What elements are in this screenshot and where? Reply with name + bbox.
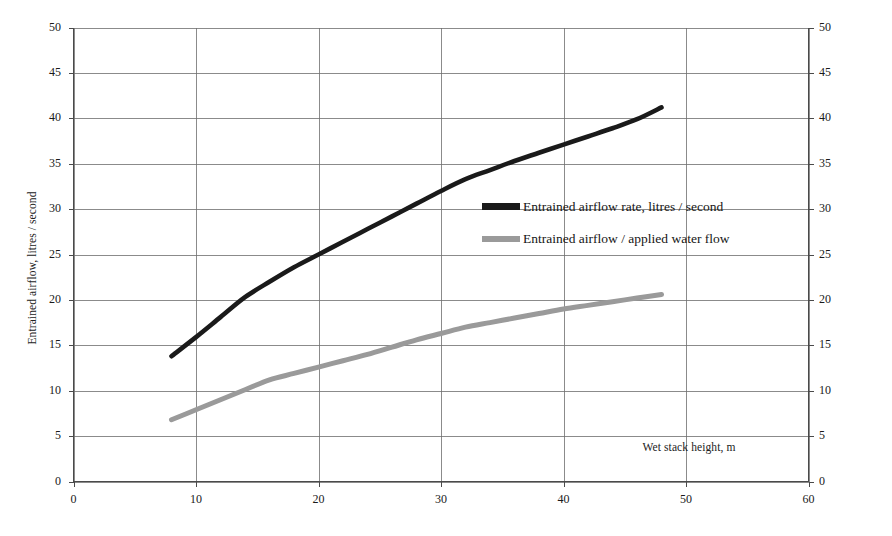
legend-label: Entrained airflow rate, litres / second [523, 199, 723, 214]
legend-swatch-icon [482, 236, 520, 242]
y-right-tick-label: 15 [819, 337, 849, 352]
x-tick-label: 50 [666, 492, 706, 507]
y-right-tick-label: 30 [819, 201, 849, 216]
y-axis-left-title: Entrained airflow, litres / second [26, 153, 38, 383]
legend-label: Entrained airflow / applied water flow [523, 231, 730, 246]
plot-canvas [0, 0, 892, 536]
x-tick-label: 40 [544, 492, 584, 507]
y-right-tick-label: 0 [819, 474, 849, 489]
y-right-tick-label: 35 [819, 156, 849, 171]
data-series [172, 107, 662, 419]
series-line-2 [172, 294, 662, 419]
x-axis-title: Wet stack height, m [584, 441, 794, 453]
y-left-tick-label: 10 [31, 383, 61, 398]
y-right-tick-label: 25 [819, 247, 849, 262]
y-right-tick-label: 40 [819, 110, 849, 125]
legend-item-2: Entrained airflow / applied water flow [482, 230, 730, 247]
legend-swatch-icon [482, 203, 520, 210]
y-right-tick-label: 20 [819, 292, 849, 307]
y-right-tick-label: 45 [819, 65, 849, 80]
y-right-tick-label: 5 [819, 428, 849, 443]
x-tick-label: 10 [176, 492, 216, 507]
y-left-tick-label: 45 [31, 65, 61, 80]
x-tick-label: 30 [421, 492, 461, 507]
y-right-tick-label: 50 [819, 20, 849, 35]
y-left-tick-label: 50 [31, 20, 61, 35]
x-tick-label: 20 [299, 492, 339, 507]
chart-container: 05101520253035404550 0510152025303540455… [0, 0, 892, 536]
x-tick-label: 60 [789, 492, 829, 507]
y-right-tick-label: 10 [819, 383, 849, 398]
y-left-tick-label: 40 [31, 110, 61, 125]
y-left-tick-label: 5 [31, 428, 61, 443]
x-tick-label: 0 [54, 492, 94, 507]
legend-item-1: Entrained airflow rate, litres / second [482, 198, 723, 215]
y-left-tick-label: 0 [31, 474, 61, 489]
